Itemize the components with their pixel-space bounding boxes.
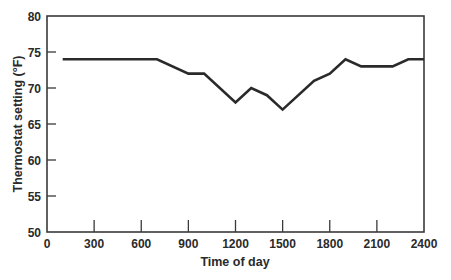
y-tick-label: 60: [28, 154, 42, 168]
x-axis-ticks: 030060090012001500180021002400: [44, 220, 438, 251]
plot-frame: [47, 16, 424, 232]
x-axis-title: Time of day: [200, 255, 269, 269]
x-tick-label: 600: [131, 237, 151, 251]
x-tick-label: 2100: [364, 237, 391, 251]
x-tick-label: 1200: [222, 237, 249, 251]
x-tick-label: 900: [178, 237, 198, 251]
y-tick-label: 55: [28, 190, 42, 204]
x-tick-label: 1500: [269, 237, 296, 251]
y-tick-label: 80: [28, 10, 42, 24]
x-tick-label: 300: [84, 237, 104, 251]
y-tick-label: 65: [28, 118, 42, 132]
y-tick-label: 70: [28, 82, 42, 96]
y-axis-title: Thermostat setting (°F): [11, 56, 25, 193]
thermostat-series-line: [63, 59, 424, 109]
y-tick-label: 50: [28, 226, 42, 240]
x-tick-label: 1800: [316, 237, 343, 251]
x-tick-label: 2400: [411, 237, 438, 251]
data-series: [63, 59, 424, 109]
x-tick-label: 0: [44, 237, 51, 251]
y-tick-label: 75: [28, 46, 42, 60]
thermostat-line-chart: 50556065707580 0300600900120015001800210…: [0, 0, 451, 280]
y-axis-ticks: 50556065707580: [28, 10, 56, 240]
plot-border: [47, 16, 424, 232]
